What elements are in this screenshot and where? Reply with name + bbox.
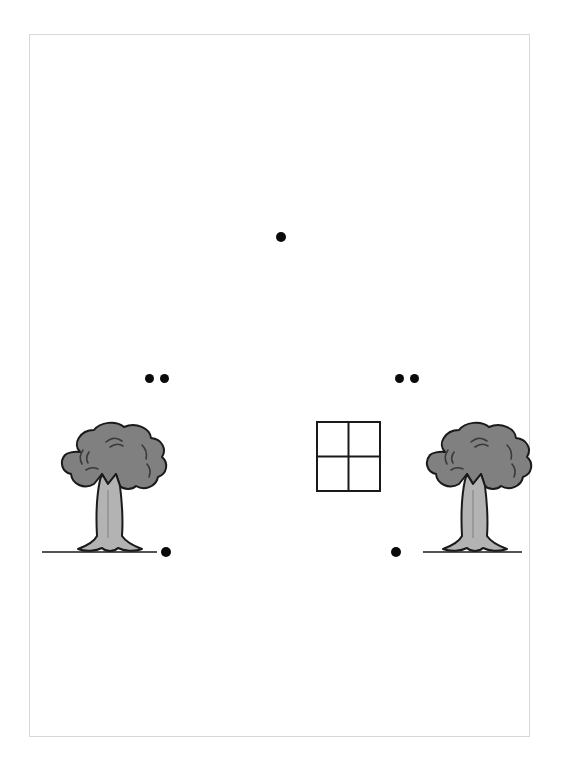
window-grid-graphic [316,421,381,492]
dot-right-upper-b[interactable] [410,374,419,383]
page-frame [29,34,530,737]
dot-right-ground[interactable] [391,547,401,557]
window-grid[interactable] [316,421,381,492]
dot-top-center[interactable] [276,232,286,242]
tree-left-graphic [50,418,180,568]
dot-left-upper-a[interactable] [145,374,154,383]
tree-right-graphic [415,418,545,568]
tree-left[interactable] [50,418,160,558]
scene-canvas [0,0,561,766]
tree-right[interactable] [415,418,525,558]
dot-left-upper-b[interactable] [160,374,169,383]
dot-right-upper-a[interactable] [395,374,404,383]
dot-left-ground[interactable] [161,547,171,557]
